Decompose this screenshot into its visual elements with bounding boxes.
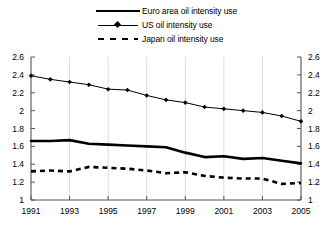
y-tick-label-right: 2.4	[308, 70, 320, 80]
y-tick-label-right: 1.6	[308, 141, 320, 151]
y-tick-label-left: 2.2	[12, 88, 24, 98]
y-tick-label-left: 2	[19, 106, 24, 116]
axis-ticks	[31, 57, 301, 200]
series-line-euro-area	[31, 140, 301, 163]
x-tick-label: 1995	[99, 206, 118, 216]
data-point-marker	[144, 93, 149, 98]
y-tick-label-right: 2.2	[308, 88, 320, 98]
x-tick-label: 1993	[60, 206, 79, 216]
y-tick-label-left: 1.6	[12, 141, 24, 151]
y-tick-label-right: 1	[308, 195, 313, 205]
data-point-marker	[241, 108, 246, 113]
data-point-marker	[183, 100, 188, 105]
x-tick-label: 2001	[214, 206, 233, 216]
data-point-marker	[29, 73, 34, 78]
x-tick-label: 2003	[253, 206, 272, 216]
data-point-marker	[279, 114, 284, 119]
y-tick-label-right: 2.6	[308, 52, 320, 62]
x-tick-label: 1999	[176, 206, 195, 216]
y-tick-label-left: 2.4	[12, 70, 24, 80]
data-point-marker	[125, 88, 130, 93]
data-point-marker	[48, 77, 53, 82]
axes	[31, 57, 301, 200]
y-tick-label-right: 1.4	[308, 159, 320, 169]
y-tick-label-left: 1.2	[12, 177, 24, 187]
y-tick-label-right: 1.8	[308, 124, 320, 134]
data-point-marker	[202, 105, 207, 110]
axis-tick-labels: 111.21.21.41.41.61.61.81.8222.22.22.42.4…	[12, 52, 320, 216]
series-line-japan	[31, 167, 301, 184]
y-tick-label-left: 1.4	[12, 159, 24, 169]
data-point-marker	[67, 80, 72, 85]
y-tick-label-left: 1.8	[12, 124, 24, 134]
x-tick-label: 1991	[22, 206, 41, 216]
data-point-marker	[260, 110, 265, 115]
data-point-marker	[222, 107, 227, 112]
x-tick-label: 2005	[292, 206, 311, 216]
plot-area: 111.21.21.41.41.61.61.81.8222.22.22.42.4…	[0, 0, 335, 228]
grid-lines	[31, 57, 301, 200]
x-tick-label: 1997	[137, 206, 156, 216]
y-tick-label-right: 1.2	[308, 177, 320, 187]
data-point-marker	[106, 87, 111, 92]
y-tick-label-left: 2.6	[12, 52, 24, 62]
data-point-marker	[164, 98, 169, 103]
y-tick-label-left: 1	[19, 195, 24, 205]
data-point-marker	[299, 119, 304, 124]
y-tick-label-right: 2	[308, 106, 313, 116]
chart-container: Euro area oil intensity use US oil inten…	[0, 0, 335, 228]
data-point-marker	[87, 82, 92, 87]
